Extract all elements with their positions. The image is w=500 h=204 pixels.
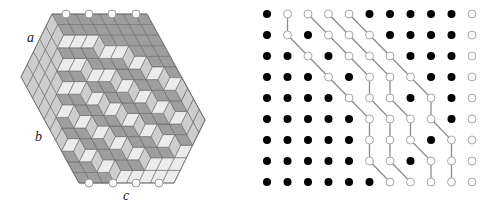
- filled-point: [345, 178, 353, 186]
- filled-point: [304, 178, 312, 186]
- open-point: [427, 157, 435, 165]
- filled-point: [345, 115, 353, 123]
- filled-point: [448, 52, 456, 60]
- filled-point: [407, 52, 415, 60]
- filled-point: [427, 73, 435, 81]
- open-point: [345, 94, 353, 102]
- bottom-boundary-marker: [132, 179, 140, 187]
- filled-point: [407, 10, 415, 18]
- filled-point: [448, 31, 456, 39]
- filled-point: [284, 136, 292, 144]
- filled-point: [325, 52, 333, 60]
- filled-point: [263, 52, 271, 60]
- open-point: [448, 136, 456, 144]
- filled-point: [263, 10, 271, 18]
- top-boundary-marker: [85, 10, 93, 18]
- lozenge-tiling: [21, 14, 205, 183]
- filled-point: [304, 157, 312, 165]
- filled-point: [284, 52, 292, 60]
- open-point: [386, 94, 394, 102]
- filled-point: [304, 136, 312, 144]
- lattice-path-3: [329, 14, 432, 182]
- open-point: [468, 136, 476, 144]
- bottom-boundary-marker: [155, 179, 163, 187]
- open-point: [427, 115, 435, 123]
- open-point: [325, 31, 333, 39]
- filled-point: [325, 157, 333, 165]
- top-boundary-marker: [108, 10, 116, 18]
- filled-point: [284, 115, 292, 123]
- open-point: [407, 136, 415, 144]
- label-a: a: [27, 30, 34, 45]
- lattice-path-2: [308, 14, 411, 182]
- open-point: [386, 136, 394, 144]
- open-point: [468, 178, 476, 186]
- open-point: [386, 178, 394, 186]
- open-point: [325, 10, 333, 18]
- open-point: [366, 157, 374, 165]
- label-b: b: [35, 129, 42, 144]
- open-point: [386, 73, 394, 81]
- open-point: [468, 157, 476, 165]
- open-point: [468, 94, 476, 102]
- filled-point: [263, 115, 271, 123]
- filled-point: [407, 94, 415, 102]
- filled-point: [263, 178, 271, 186]
- filled-point: [386, 10, 394, 18]
- open-point: [407, 178, 415, 186]
- filled-point: [386, 31, 394, 39]
- open-point: [386, 157, 394, 165]
- open-point: [325, 73, 333, 81]
- open-point: [366, 73, 374, 81]
- lattice-points: [263, 10, 476, 186]
- filled-point: [427, 31, 435, 39]
- open-point: [386, 52, 394, 60]
- filled-point: [263, 31, 271, 39]
- open-point: [366, 136, 374, 144]
- open-point: [407, 73, 415, 81]
- filled-point: [366, 10, 374, 18]
- filled-point: [407, 157, 415, 165]
- open-point: [448, 178, 456, 186]
- figure-canvas: a b c: [0, 0, 500, 204]
- open-point: [386, 115, 394, 123]
- top-boundary-marker: [132, 10, 140, 18]
- open-point: [468, 10, 476, 18]
- open-point: [345, 52, 353, 60]
- open-point: [304, 52, 312, 60]
- filled-point: [284, 178, 292, 186]
- filled-point: [448, 10, 456, 18]
- lattice-path-4: [349, 14, 452, 182]
- open-point: [468, 73, 476, 81]
- open-point: [448, 157, 456, 165]
- open-point: [345, 31, 353, 39]
- open-point: [366, 31, 374, 39]
- open-point: [427, 94, 435, 102]
- filled-point: [284, 94, 292, 102]
- filled-point: [427, 52, 435, 60]
- open-point: [366, 115, 374, 123]
- filled-point: [366, 178, 374, 186]
- bottom-boundary-marker: [85, 179, 93, 187]
- filled-point: [427, 10, 435, 18]
- lattice-path-1: [288, 14, 391, 182]
- open-point: [468, 115, 476, 123]
- filled-point: [448, 73, 456, 81]
- open-point: [366, 52, 374, 60]
- open-point: [407, 115, 415, 123]
- label-c: c: [123, 188, 130, 203]
- open-point: [427, 178, 435, 186]
- filled-point: [263, 136, 271, 144]
- filled-point: [325, 136, 333, 144]
- filled-point: [304, 31, 312, 39]
- top-boundary-marker: [62, 10, 70, 18]
- open-point: [284, 31, 292, 39]
- open-point: [468, 52, 476, 60]
- filled-point: [284, 157, 292, 165]
- bottom-boundary-marker: [109, 179, 117, 187]
- filled-point: [263, 73, 271, 81]
- open-point: [304, 10, 312, 18]
- filled-point: [325, 115, 333, 123]
- filled-point: [263, 94, 271, 102]
- open-point: [468, 31, 476, 39]
